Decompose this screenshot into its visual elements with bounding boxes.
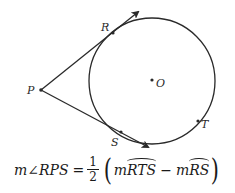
formula-m: m [14,162,27,178]
point-p [39,88,43,92]
fraction-one-half: 1 2 [87,156,99,183]
arc-rs: RS [189,162,209,178]
open-paren: ( [104,155,112,185]
point-r [111,31,114,34]
label-r: R [100,21,109,34]
minus-sign: − [160,162,172,178]
term1-m: m [114,162,127,178]
fraction-denominator: 2 [89,170,97,183]
label-p: P [26,84,35,97]
angle-symbol: ∠ [27,162,39,178]
tangent-ray-ps [41,90,148,147]
equals-sign: = [73,162,85,178]
angle-name: RPS [39,162,69,178]
angle-formula: m ∠ RPS = 1 2 ( m RTS − m RS ) [0,146,235,193]
term2-m: m [176,162,189,178]
arc-rts: RTS [127,162,156,178]
label-t: T [201,118,210,131]
fraction-numerator: 1 [87,156,99,170]
label-o: O [156,77,165,90]
close-paren: ) [211,155,219,185]
point-o [150,78,153,81]
point-t [196,119,199,122]
point-s [119,130,122,133]
